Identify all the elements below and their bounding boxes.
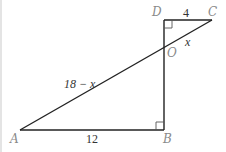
length-label-OC: x (184, 35, 191, 49)
length-label-AB: 12 (86, 132, 98, 146)
length-label-DC: 4 (183, 6, 189, 20)
figure-svg: D C O A B 4 x 18 − x 12 (0, 0, 226, 152)
point-label-D: D (151, 5, 162, 19)
point-label-B: B (162, 132, 172, 146)
segment-AC (20, 20, 212, 130)
length-label-AO: 18 − x (64, 77, 96, 91)
point-label-O: O (167, 46, 177, 60)
right-angle-marker-D (164, 20, 172, 28)
point-label-A: A (9, 132, 19, 146)
right-angle-marker-B (156, 122, 164, 130)
geometry-diagram: D C O A B 4 x 18 − x 12 (0, 0, 226, 152)
point-label-C: C (208, 5, 217, 19)
